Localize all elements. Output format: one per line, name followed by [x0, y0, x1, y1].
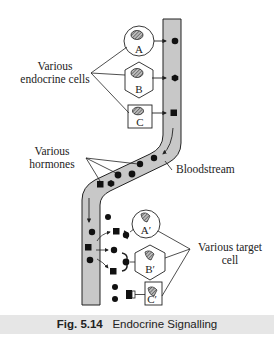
target-cell-a-prime: A′ [123, 210, 160, 239]
nucleus-icon [131, 69, 143, 78]
endocrine-cell-a: A [124, 26, 154, 56]
endocrine-signalling-diagram: A B C Various endocrine cells Various ho… [0, 0, 274, 347]
svg-text:cell: cell [222, 254, 239, 266]
cell-label-b: B [135, 83, 142, 95]
target-cell-c-prime: C′ [126, 282, 162, 305]
endocrine-cell-b: B [125, 62, 153, 98]
svg-text:Various: Various [34, 145, 70, 157]
target-cell-b-prime: B′ [122, 245, 165, 280]
label-bloodstream: Bloodstream [165, 161, 235, 175]
label-target-cells: Various target cell [158, 231, 263, 296]
figure-caption: Fig. 5.14 Endocrine Signalling [0, 315, 274, 334]
nucleus-icon [133, 107, 144, 115]
svg-text:Various target: Various target [198, 241, 263, 254]
figure-title: Endocrine Signalling [112, 318, 217, 330]
label-endocrine-cells: Various endocrine cells [20, 47, 129, 113]
hormone-a-icon [172, 38, 179, 45]
nucleus-icon [131, 31, 143, 40]
cell-label-a: A [135, 43, 143, 55]
svg-text:Bloodstream: Bloodstream [176, 163, 235, 175]
endocrine-cell-c: C [128, 105, 152, 128]
svg-text:A′: A′ [141, 224, 151, 236]
cell-label-c: C [136, 116, 143, 128]
svg-text:Various: Various [37, 60, 73, 72]
svg-text:endocrine cells: endocrine cells [20, 73, 90, 85]
svg-text:C′: C′ [147, 293, 157, 305]
figure-number: Fig. 5.14 [57, 318, 103, 330]
svg-text:hormones: hormones [29, 158, 75, 170]
hormone-c-icon [171, 110, 178, 117]
svg-text:B′: B′ [145, 263, 155, 275]
receptor-bound-icon [126, 290, 132, 299]
